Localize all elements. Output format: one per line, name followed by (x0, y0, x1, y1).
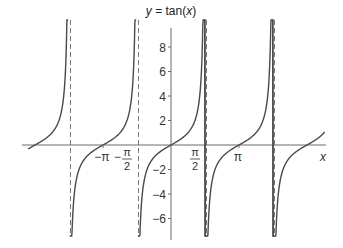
y-tick-label: −6 (152, 212, 166, 226)
tick-labels: 8642−2−4−6−π−π2π2π (94, 41, 242, 227)
asymptotes (70, 20, 274, 236)
x-tick-label-numerator: π (191, 146, 199, 158)
y-tick-label: 4 (159, 90, 166, 104)
x-tick-label-denominator: 2 (124, 160, 130, 172)
x-tick-label-denominator: 2 (192, 160, 198, 172)
tan-branch (138, 20, 206, 236)
tan-branch (204, 20, 274, 236)
tan-curves (28, 20, 325, 236)
tan-branch (28, 20, 68, 149)
x-tick-label: π (234, 150, 242, 164)
y-tick-label: 6 (159, 65, 166, 79)
x-tick-label-minus: − (114, 150, 121, 164)
y-tick-label: 2 (159, 114, 166, 128)
axes (22, 28, 326, 240)
tan-branch (70, 20, 136, 236)
tan-branch (272, 20, 324, 236)
x-tick-label-numerator: π (123, 146, 131, 158)
y-tick-label: 8 (159, 41, 166, 55)
x-tick-label: −π (94, 150, 109, 164)
y-tick-label: −4 (152, 188, 166, 202)
x-axis-label: x (319, 150, 327, 164)
y-tick-label: −2 (152, 163, 166, 177)
tan-chart: 8642−2−4−6−π−π2π2π y = tan(x) x (0, 0, 343, 248)
chart-title: y = tan(x) (145, 4, 196, 18)
